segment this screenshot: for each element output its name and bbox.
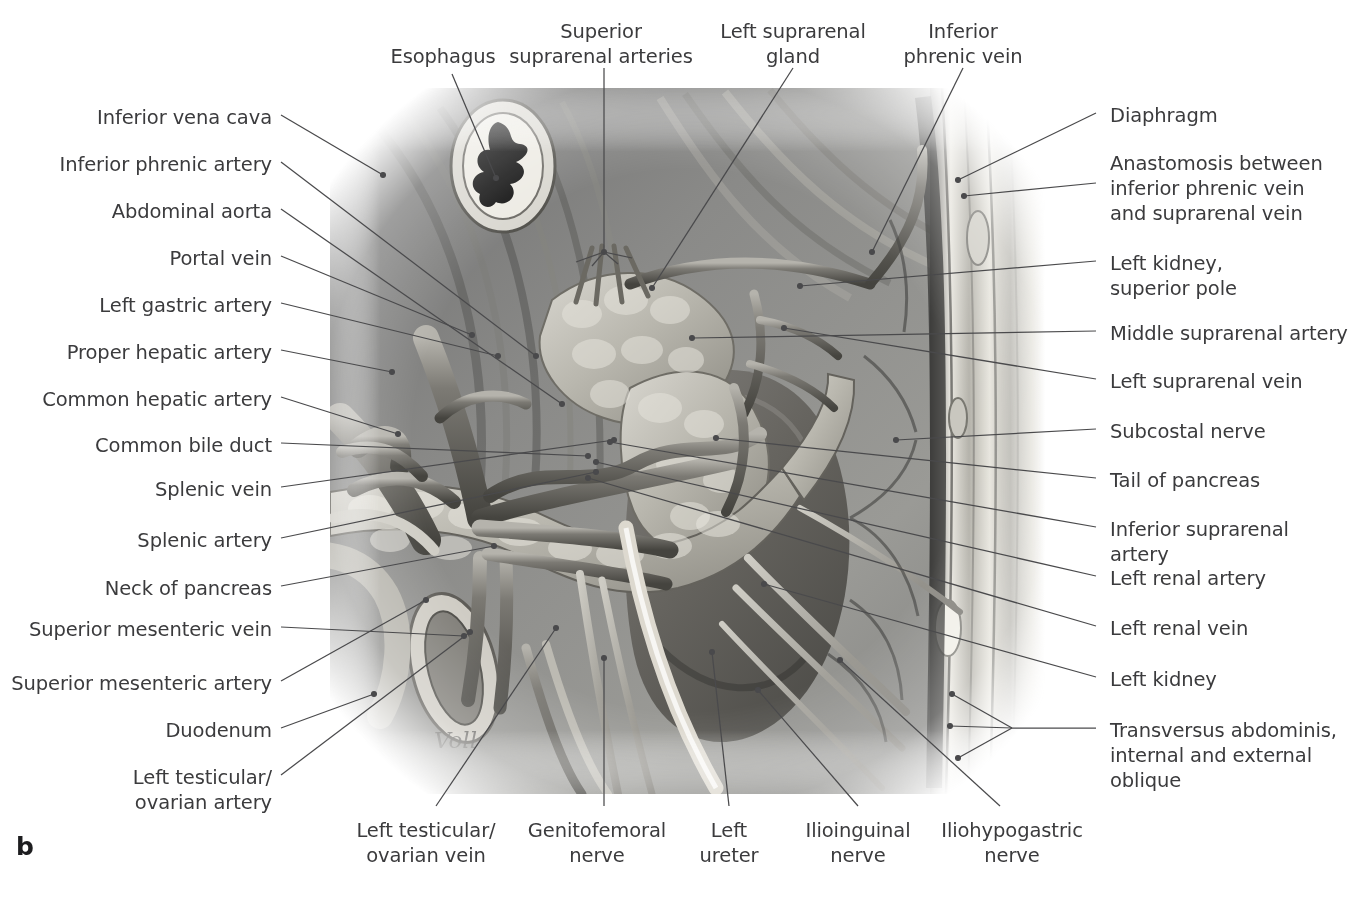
esophagus (451, 100, 555, 232)
artist-signature: Voll (434, 727, 477, 753)
label-inferior-phrenic-artery: Inferior phrenic artery (0, 152, 272, 177)
label-neck-of-pancreas: Neck of pancreas (0, 576, 272, 601)
label-subcostal-nerve: Subcostal nerve (1110, 419, 1353, 444)
label-splenic-artery: Splenic artery (0, 528, 272, 553)
label-portal-vein: Portal vein (0, 246, 272, 271)
label-tail-of-pancreas: Tail of pancreas (1110, 468, 1353, 493)
anatomical-illustration: Voll (330, 88, 1045, 794)
figure-page: Voll (0, 0, 1353, 898)
label-left-suprarenal-vein: Left suprarenal vein (1110, 369, 1353, 394)
label-left-renal-vein: Left renal vein (1110, 616, 1353, 641)
label-proper-hepatic-artery: Proper hepatic artery (0, 340, 272, 365)
label-superior-mesenteric-artery: Superior mesenteric artery (0, 671, 272, 696)
label-iliohypogastric-nerve: Iliohypogastric nerve (892, 818, 1132, 868)
label-left-gastric-artery: Left gastric artery (0, 293, 272, 318)
label-common-bile-duct: Common bile duct (0, 433, 272, 458)
label-left-renal-artery: Left renal artery (1110, 566, 1353, 591)
label-splenic-vein: Splenic vein (0, 477, 272, 502)
label-diaphragm: Diaphragm (1110, 103, 1353, 128)
label-left-testicular-ovarian-artery: Left testicular/ ovarian artery (0, 765, 272, 815)
label-transversus-abdominis-obliques: Transversus abdominis, internal and exte… (1110, 718, 1353, 793)
label-middle-suprarenal-artery: Middle suprarenal artery (1110, 321, 1353, 346)
label-inferior-suprarenal-artery: Inferior suprarenal artery (1110, 517, 1353, 567)
label-inferior-vena-cava: Inferior vena cava (0, 105, 272, 130)
label-inferior-phrenic-vein: Inferior phrenic vein (813, 19, 1113, 69)
label-left-kidney-superior-pole: Left kidney, superior pole (1110, 251, 1353, 301)
label-abdominal-aorta: Abdominal aorta (0, 199, 272, 224)
figure-letter: b (16, 832, 34, 861)
label-duodenum: Duodenum (0, 718, 272, 743)
illustration-body: Voll (330, 88, 1045, 794)
illustration-canvas: Voll (330, 88, 1045, 794)
label-left-kidney: Left kidney (1110, 667, 1353, 692)
label-common-hepatic-artery: Common hepatic artery (0, 387, 272, 412)
abdominal-wall-muscles (915, 88, 1045, 794)
label-superior-mesenteric-vein: Superior mesenteric vein (0, 617, 272, 642)
label-anastomosis-phrenic-suprarenal: Anastomosis between inferior phrenic vei… (1110, 151, 1353, 226)
